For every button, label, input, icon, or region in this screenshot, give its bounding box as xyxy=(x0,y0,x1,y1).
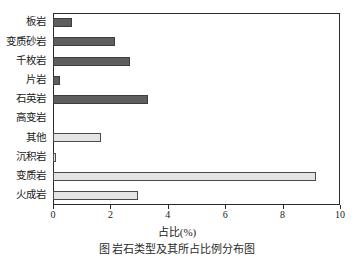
bar-row xyxy=(53,128,340,147)
bar xyxy=(53,153,56,162)
category-label: 火成岩 xyxy=(0,186,50,205)
bar xyxy=(53,37,115,46)
bar xyxy=(53,172,316,181)
x-axis-tick-labels: 0246810 xyxy=(53,208,340,222)
bars-container xyxy=(53,13,340,205)
bar xyxy=(53,18,72,27)
category-label: 板岩 xyxy=(0,13,50,32)
x-axis-tick-label: 10 xyxy=(335,208,345,222)
category-label: 变质砂岩 xyxy=(0,32,50,51)
bar-row xyxy=(53,32,340,51)
category-label: 高变岩 xyxy=(0,109,50,128)
x-axis-tick-label: 6 xyxy=(223,208,228,222)
x-axis-tick-label: 4 xyxy=(165,208,170,222)
bar-row xyxy=(53,109,340,128)
bar-row xyxy=(53,186,340,205)
category-label: 片岩 xyxy=(0,71,50,90)
bar-row xyxy=(53,147,340,166)
bar-row xyxy=(53,90,340,109)
bar xyxy=(53,191,138,200)
bar-row xyxy=(53,51,340,70)
bar xyxy=(53,95,148,104)
bar-row xyxy=(53,13,340,32)
bar xyxy=(53,76,60,85)
category-label: 石英岩 xyxy=(0,90,50,109)
x-axis-tick-label: 0 xyxy=(51,208,56,222)
bar-row xyxy=(53,71,340,90)
category-label: 其他 xyxy=(0,128,50,147)
category-label: 沉积岩 xyxy=(0,147,50,166)
category-label: 千枚岩 xyxy=(0,51,50,70)
x-axis-tick-label: 8 xyxy=(280,208,285,222)
bar-row xyxy=(53,167,340,186)
x-axis-tick-label: 2 xyxy=(108,208,113,222)
bar xyxy=(53,57,130,66)
category-axis-labels: 板岩 变质砂岩 千枚岩 片岩 石英岩 高变岩 其他 沉积岩 变质岩 火成岩 xyxy=(0,13,50,205)
category-label: 变质岩 xyxy=(0,167,50,186)
figure-caption: 图 岩石类型及其所占比例分布图 xyxy=(0,243,354,256)
x-axis-title: 占比(%) xyxy=(0,226,354,239)
bar xyxy=(53,133,101,142)
